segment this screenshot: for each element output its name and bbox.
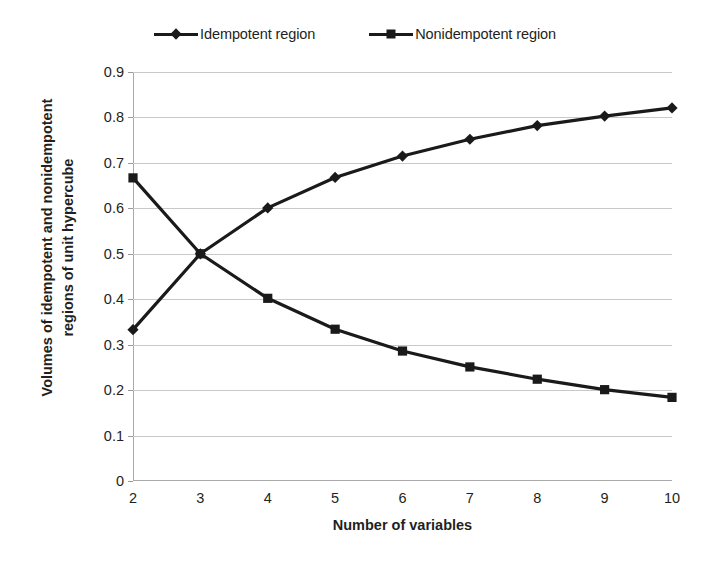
series-idempotent-region [127, 102, 677, 335]
diamond-marker-icon [532, 120, 543, 131]
y-tick-label: 0.5 [104, 246, 124, 262]
y-tick-label: 0 [116, 473, 124, 489]
series-plot [133, 72, 672, 481]
legend-line-swatch-diamond [154, 27, 198, 41]
x-tick-label: 9 [601, 490, 609, 506]
y-axis-title-line-2: regions of unit hypercube [58, 99, 79, 397]
legend-label-nonidempotent-region: Nonidempotent region [415, 26, 556, 42]
y-tick-mark [128, 481, 133, 482]
series-nonidempotent-region [128, 173, 676, 402]
y-tick-label: 0.3 [104, 337, 124, 353]
y-tick-label: 0.2 [104, 382, 124, 398]
y-axis-title-line-1: Volumes of idempotent and nonidempotent [37, 99, 58, 397]
y-tick-label: 0.9 [104, 64, 124, 80]
square-marker-icon [196, 249, 205, 258]
square-marker-icon [533, 375, 542, 384]
legend-item-idempotent-region[interactable]: Idempotent region [154, 26, 315, 42]
legend-item-nonidempotent-region[interactable]: Nonidempotent region [369, 26, 556, 42]
x-tick-label: 6 [398, 490, 406, 506]
x-tick-label: 5 [331, 490, 339, 506]
x-axis-title: Number of variables [133, 517, 672, 533]
series-line [133, 178, 672, 397]
diamond-marker-icon [170, 28, 181, 39]
square-marker-icon [263, 294, 272, 303]
diamond-marker-icon [464, 134, 475, 145]
legend-line-swatch-square [369, 27, 413, 41]
x-tick-label: 3 [196, 490, 204, 506]
x-tick-label: 2 [129, 490, 137, 506]
diamond-marker-icon [330, 172, 341, 183]
series-line [133, 108, 672, 330]
plot-area: 00.10.20.30.40.50.60.70.80.9 2345678910 [133, 72, 672, 481]
square-marker-icon [465, 362, 474, 371]
x-tick-label: 7 [466, 490, 474, 506]
y-tick-label: 0.6 [104, 200, 124, 216]
square-marker-icon [331, 325, 340, 334]
chart-legend: Idempotent region Nonidempotent region [0, 26, 710, 42]
diamond-marker-icon [666, 102, 677, 113]
square-marker-icon [600, 385, 609, 394]
square-marker-icon [387, 30, 396, 39]
y-tick-label: 0.7 [104, 155, 124, 171]
x-tick-label: 4 [264, 490, 272, 506]
legend-label-idempotent-region: Idempotent region [200, 26, 315, 42]
x-tick-label: 8 [533, 490, 541, 506]
y-tick-label: 0.4 [104, 291, 124, 307]
square-marker-icon [128, 173, 137, 182]
y-tick-label: 0.1 [104, 428, 124, 444]
chart-figure: Idempotent region Nonidempotent region V… [0, 0, 710, 563]
square-marker-icon [667, 393, 676, 402]
square-marker-icon [398, 346, 407, 355]
y-axis-title: Volumes of idempotent and nonidempotent … [30, 0, 86, 495]
y-tick-label: 0.8 [104, 109, 124, 125]
x-tick-label: 10 [664, 490, 680, 506]
diamond-marker-icon [397, 150, 408, 161]
diamond-marker-icon [599, 110, 610, 121]
